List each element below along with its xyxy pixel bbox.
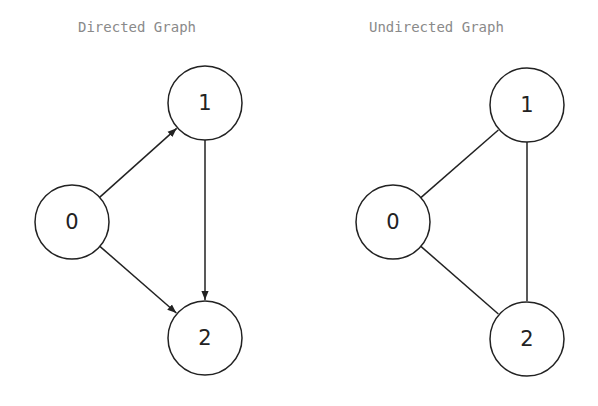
node-label: 1	[198, 91, 211, 115]
node-label: 1	[520, 93, 533, 117]
node-0: 0	[356, 185, 430, 259]
node-0: 0	[35, 185, 109, 259]
edge-0-1	[421, 130, 499, 198]
directed-graph: 012	[35, 66, 242, 375]
node-label: 0	[386, 210, 399, 234]
edge-0-2	[421, 246, 499, 314]
graph-canvas: 012 012	[0, 0, 598, 406]
node-2: 2	[490, 302, 564, 376]
node-label: 2	[520, 327, 533, 351]
node-2: 2	[168, 301, 242, 375]
node-1: 1	[490, 68, 564, 142]
edge-0-1	[100, 128, 177, 197]
node-1: 1	[168, 66, 242, 140]
undirected-graph: 012	[356, 68, 564, 376]
node-label: 0	[65, 210, 78, 234]
node-label: 2	[198, 326, 211, 350]
edge-0-2	[100, 246, 176, 313]
